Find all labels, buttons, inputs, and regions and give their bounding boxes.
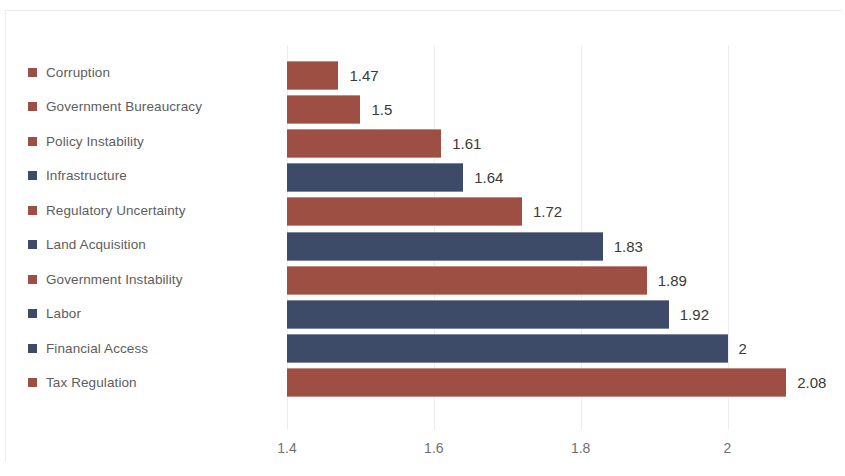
legend-item[interactable]: Labor <box>28 297 278 331</box>
bar[interactable] <box>287 266 647 295</box>
bar-value-label: 1.47 <box>349 67 378 84</box>
legend-swatch-icon <box>28 344 37 353</box>
bar-row: 1.5 <box>287 92 845 126</box>
legend-item[interactable]: Government Instability <box>28 262 278 296</box>
legend-swatch-icon <box>28 378 37 387</box>
bar-value-label: 1.61 <box>452 135 481 152</box>
bar[interactable] <box>287 61 338 90</box>
bar-value-label: 2 <box>739 340 747 357</box>
legend-item-label: Regulatory Uncertainty <box>46 203 186 218</box>
plot-area: 1.471.51.611.641.721.831.891.9222.08 <box>287 45 845 430</box>
chart-left-border <box>5 10 6 462</box>
bar[interactable] <box>287 197 522 226</box>
legend-swatch-icon <box>28 309 37 318</box>
bar[interactable] <box>287 334 728 363</box>
bar-value-label: 1.92 <box>680 306 709 323</box>
x-axis-tick-label: 1.4 <box>277 440 296 456</box>
bar-value-label: 1.89 <box>658 272 687 289</box>
legend-swatch-icon <box>28 68 37 77</box>
bar[interactable] <box>287 232 603 261</box>
legend-item[interactable]: Financial Access <box>28 331 278 365</box>
bar-row: 2 <box>287 332 845 366</box>
legend-item[interactable]: Tax Regulation <box>28 366 278 400</box>
bar-value-label: 1.5 <box>371 101 392 118</box>
bar-value-label: 2.08 <box>797 374 826 391</box>
bar-value-label: 1.83 <box>614 238 643 255</box>
legend-swatch-icon <box>28 102 37 111</box>
legend-swatch-icon <box>28 137 37 146</box>
bar-chart: CorruptionGovernment BureaucracyPolicy I… <box>0 0 845 476</box>
chart-legend: CorruptionGovernment BureaucracyPolicy I… <box>28 55 278 400</box>
bar-series: 1.471.51.611.641.721.831.891.9222.08 <box>287 58 845 400</box>
bar-row: 2.08 <box>287 366 845 400</box>
bar-row: 1.64 <box>287 161 845 195</box>
legend-item[interactable]: Infrastructure <box>28 159 278 193</box>
legend-item-label: Policy Instability <box>46 134 144 149</box>
legend-item-label: Corruption <box>46 65 110 80</box>
legend-item[interactable]: Corruption <box>28 55 278 89</box>
bar-row: 1.83 <box>287 229 845 263</box>
legend-swatch-icon <box>28 206 37 215</box>
x-axis-tick-label: 2 <box>724 440 732 456</box>
x-axis-tick-label: 1.6 <box>424 440 443 456</box>
bar[interactable] <box>287 300 669 329</box>
bar-row: 1.92 <box>287 297 845 331</box>
bar-row: 1.89 <box>287 263 845 297</box>
bar[interactable] <box>287 129 441 158</box>
legend-swatch-icon <box>28 275 37 284</box>
bar-value-label: 1.72 <box>533 203 562 220</box>
bar-value-label: 1.64 <box>474 169 503 186</box>
bar[interactable] <box>287 368 786 397</box>
legend-item-label: Infrastructure <box>46 168 127 183</box>
legend-swatch-icon <box>28 240 37 249</box>
legend-swatch-icon <box>28 171 37 180</box>
bar[interactable] <box>287 95 360 124</box>
x-axis: 1.41.61.82 <box>287 440 845 464</box>
bar-row: 1.47 <box>287 58 845 92</box>
bar-row: 1.61 <box>287 126 845 160</box>
legend-item-label: Labor <box>46 306 81 321</box>
bar[interactable] <box>287 163 463 192</box>
legend-item-label: Tax Regulation <box>46 375 137 390</box>
legend-item-label: Land Acquisition <box>46 237 146 252</box>
x-axis-tick-label: 1.8 <box>571 440 590 456</box>
legend-item-label: Government Bureaucracy <box>46 99 202 114</box>
bar-row: 1.72 <box>287 195 845 229</box>
legend-item[interactable]: Land Acquisition <box>28 228 278 262</box>
legend-item[interactable]: Regulatory Uncertainty <box>28 193 278 227</box>
legend-item[interactable]: Government Bureaucracy <box>28 90 278 124</box>
legend-item-label: Financial Access <box>46 341 148 356</box>
legend-item[interactable]: Policy Instability <box>28 124 278 158</box>
chart-top-border <box>4 10 842 11</box>
legend-item-label: Government Instability <box>46 272 183 287</box>
